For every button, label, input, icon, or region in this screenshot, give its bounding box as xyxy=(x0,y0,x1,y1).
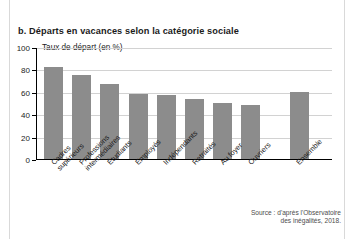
gridline xyxy=(37,48,332,49)
y-axis-tick-label: 0 xyxy=(4,156,30,165)
y-axis-tick-label: 20 xyxy=(4,133,30,142)
figure-container: b. Départs en vacances selon la catégori… xyxy=(0,0,355,239)
y-axis-tick xyxy=(32,70,36,71)
chart-title: b. Départs en vacances selon la catégori… xyxy=(18,26,239,36)
page-frame-right-edge xyxy=(344,0,345,239)
gridline xyxy=(37,70,332,71)
y-axis-tick-label: 40 xyxy=(4,111,30,120)
source-line-2: des inégalités, 2018. xyxy=(251,217,341,225)
y-axis-line xyxy=(36,48,37,160)
x-axis-category-labels: CadressupérieursProfessionsintermédiaire… xyxy=(36,161,336,213)
y-axis-tick-label: 80 xyxy=(4,66,30,75)
y-axis-tick-label: 60 xyxy=(4,88,30,97)
y-axis-tick xyxy=(32,93,36,94)
bar xyxy=(44,67,63,159)
y-axis-tick xyxy=(32,138,36,139)
y-axis-tick-label: 100 xyxy=(4,44,30,53)
y-axis-tick xyxy=(32,48,36,49)
source-line-1: Source : d'après l'Observatoire xyxy=(251,209,341,217)
y-axis-tick xyxy=(32,115,36,116)
y-axis-tick-labels: 020406080100 xyxy=(0,48,30,160)
source-note: Source : d'après l'Observatoire des inég… xyxy=(251,209,341,225)
